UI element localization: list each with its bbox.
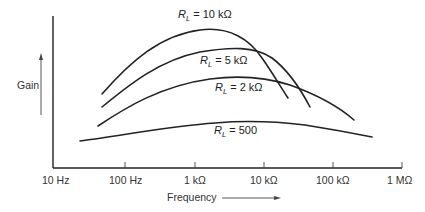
x-tick-label: 1 MΩ: [387, 174, 413, 186]
x-axis-title-group: Frequency: [167, 191, 281, 203]
curve-labels: RL = 10 kΩ RL = 5 kΩ RL = 2 kΩ RL = 500: [178, 8, 263, 139]
y-axis-title-group: Gain: [17, 53, 43, 115]
x-tick-label: 100 Hz: [109, 174, 142, 186]
gain-vs-frequency-chart: 10 Hz 100 Hz 1 kΩ 10 kΩ 100 kΩ 1 MΩ Gain…: [0, 0, 425, 212]
label-rl-10k: RL = 10 kΩ: [178, 8, 232, 23]
label-rl-2k: RL = 2 kΩ: [215, 81, 263, 96]
right-arrow-icon: [274, 196, 281, 200]
x-ticks: [125, 162, 402, 168]
x-axis-title: Frequency: [167, 191, 217, 203]
up-arrow-icon: [39, 53, 43, 60]
x-tick-label: 1 kΩ: [184, 174, 206, 186]
x-tick-label: 10 Hz: [42, 174, 69, 186]
curve-rl-2k: [98, 77, 354, 126]
label-rl-5k: RL = 5 kΩ: [200, 54, 248, 69]
label-rl-500: RL = 500: [214, 124, 257, 139]
x-tick-labels: 10 Hz 100 Hz 1 kΩ 10 kΩ 100 kΩ 1 MΩ: [42, 174, 413, 186]
y-axis-title: Gain: [17, 79, 39, 91]
x-tick-label: 10 kΩ: [250, 174, 278, 186]
x-tick-label: 100 kΩ: [316, 174, 350, 186]
